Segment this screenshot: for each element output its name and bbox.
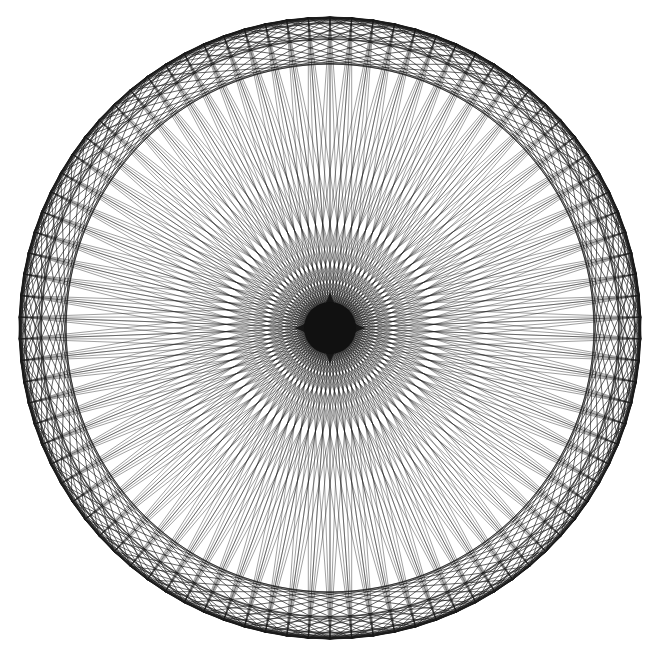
chord-diagram (0, 0, 659, 663)
string-art-figure (0, 0, 659, 663)
center-core (304, 302, 356, 354)
